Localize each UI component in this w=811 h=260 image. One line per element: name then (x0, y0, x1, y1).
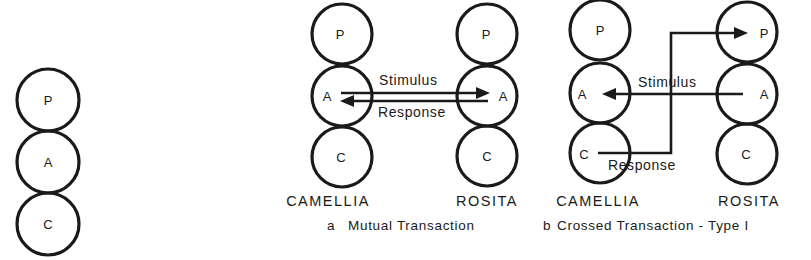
arrowhead-icon (734, 27, 748, 39)
rosita-name: ROSITA (456, 193, 518, 209)
adult-label: A (44, 155, 53, 170)
caption-letter: b (543, 218, 551, 233)
camellia-name: CAMELLIA (286, 193, 370, 209)
arrowhead-icon (602, 88, 616, 100)
child-label: C (579, 147, 588, 162)
camellia-ego-stack: P A C (570, 0, 630, 183)
parent-label: P (482, 27, 491, 42)
transaction-diagram: P A C P A C P A C Stim (0, 0, 811, 260)
parent-label: P (596, 23, 605, 38)
arrowhead-icon (476, 87, 490, 99)
standalone-ego-stack: P A C (17, 69, 79, 255)
rosita-name: ROSITA (718, 193, 780, 209)
child-label: C (482, 149, 491, 164)
caption-text: Crossed Transaction - Type I (557, 218, 749, 233)
caption-letter: a (327, 218, 335, 233)
stimulus-label: Stimulus (379, 72, 437, 88)
child-label: C (336, 150, 345, 165)
adult-circle (457, 66, 517, 126)
parent-label: P (44, 93, 53, 108)
panel-b-crossed-transaction: P A C P A C Stimulus Response CAMELLIA R… (543, 0, 780, 233)
child-label: C (741, 147, 750, 162)
camellia-ego-stack: P A C (312, 4, 372, 187)
parent-label: P (760, 26, 769, 41)
stimulus-label: Stimulus (638, 74, 696, 90)
adult-label: A (578, 87, 587, 102)
parent-label: P (336, 27, 345, 42)
arrowhead-icon (340, 95, 354, 107)
adult-circle (312, 66, 372, 126)
camellia-name: CAMELLIA (556, 193, 640, 209)
child-label: C (43, 217, 52, 232)
response-label: Response (608, 157, 676, 173)
adult-label: A (760, 87, 769, 102)
stimulus-arrow (341, 87, 490, 99)
rosita-ego-stack: P A C (457, 4, 517, 186)
adult-label: A (499, 89, 508, 104)
caption-text: Mutual Transaction (348, 218, 475, 233)
adult-label: A (323, 89, 332, 104)
panel-a-mutual-transaction: P A C P A C Stimulus Response CAMELLIA R… (286, 4, 518, 233)
response-label: Response (378, 104, 446, 120)
